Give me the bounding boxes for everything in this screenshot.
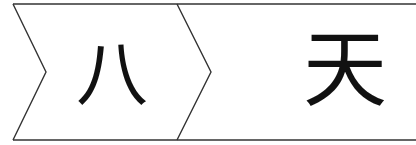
cell-1-character: 八 (62, 38, 162, 110)
left-notch (13, 4, 46, 140)
cell-2-character: 天 (295, 28, 395, 112)
separator-chevron (177, 4, 211, 140)
